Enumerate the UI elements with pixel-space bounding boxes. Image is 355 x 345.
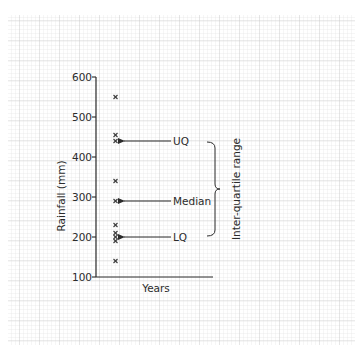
- chart: 100200300400500600 Years Rainfall (mm) U…: [0, 0, 355, 345]
- y-tick-label: 400: [72, 151, 92, 163]
- y-tick-label: 200: [72, 231, 92, 243]
- label-lq: LQ: [173, 231, 187, 243]
- y-axis-title: Rainfall (mm): [55, 160, 67, 231]
- y-tick-label: 100: [72, 271, 92, 283]
- y-tick-label: 300: [72, 191, 92, 203]
- y-tick-label: 500: [72, 111, 92, 123]
- label-inter-quartile-range: Inter-quartile range: [230, 138, 242, 240]
- label-median: Median: [173, 195, 211, 207]
- y-tick-label: 600: [72, 71, 92, 83]
- x-axis-title: Years: [141, 282, 170, 294]
- label-uq: UQ: [173, 135, 189, 147]
